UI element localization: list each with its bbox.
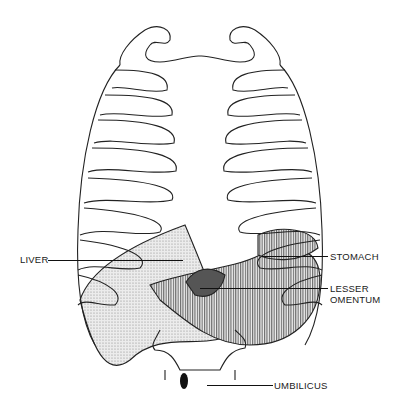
anatomy-diagram: LIVER STOMACH LESSER OMENTUM UMBILICUS [0, 0, 400, 419]
label-liver: LIVER [20, 254, 48, 265]
umbilicus-mark [180, 373, 188, 389]
label-lesser-omentum-2: OMENTUM [330, 294, 380, 305]
label-stomach: STOMACH [330, 251, 379, 262]
label-lesser-omentum-1: LESSER [330, 283, 369, 294]
label-umbilicus: UMBILICUS [274, 380, 328, 391]
leader-lesser-omentum [200, 288, 328, 289]
leader-stomach [262, 256, 328, 257]
leader-umbilicus [207, 385, 273, 386]
leader-liver [48, 260, 183, 261]
rib-cage-illustration [0, 0, 400, 419]
